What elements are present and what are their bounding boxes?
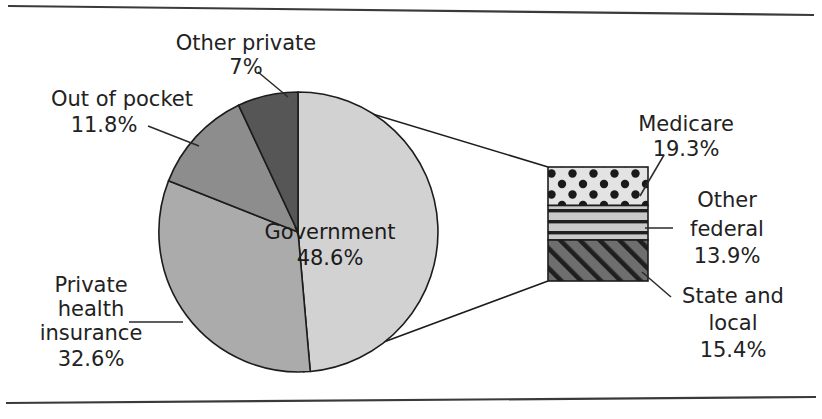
label-government-name: Government	[265, 220, 396, 244]
pie-chart-figure: Other private 7% Out of pocket 11.8% Pri…	[0, 0, 822, 419]
leader-out-of-pocket	[148, 126, 199, 146]
label-private-health-insurance-value: 32.6%	[58, 347, 125, 371]
label-out-of-pocket-value: 11.8%	[71, 113, 138, 137]
figure-root: Other private 7% Out of pocket 11.8% Pri…	[0, 0, 822, 419]
label-other-federal-value: 13.9%	[694, 244, 761, 268]
label-private-health-insurance-line1: Private	[54, 273, 127, 297]
label-other-federal-line2: federal	[690, 217, 764, 241]
label-state-and-local-value: 15.4%	[700, 338, 767, 362]
label-government-value: 48.6%	[297, 246, 364, 270]
label-other-federal-line1: Other	[697, 188, 757, 212]
top-rule	[8, 6, 814, 15]
label-state-and-local-line2: local	[709, 311, 758, 335]
bar-segment-other-federal[interactable]	[548, 206, 648, 241]
label-medicare-value: 19.3%	[653, 137, 720, 161]
label-private-health-insurance-line2: health	[58, 297, 124, 321]
label-medicare-name: Medicare	[638, 112, 734, 136]
bar-segment-state-and-local[interactable]	[548, 240, 648, 281]
bar-segment-medicare[interactable]	[548, 167, 648, 206]
label-other-private-name: Other private	[176, 31, 317, 55]
label-other-private-value: 7%	[229, 55, 262, 79]
label-private-health-insurance-line3: insurance	[40, 321, 143, 345]
label-out-of-pocket-name: Out of pocket	[51, 87, 193, 111]
bottom-rule	[6, 397, 816, 403]
label-state-and-local-line1: State and	[682, 284, 784, 308]
leader-state-and-local	[642, 272, 671, 297]
